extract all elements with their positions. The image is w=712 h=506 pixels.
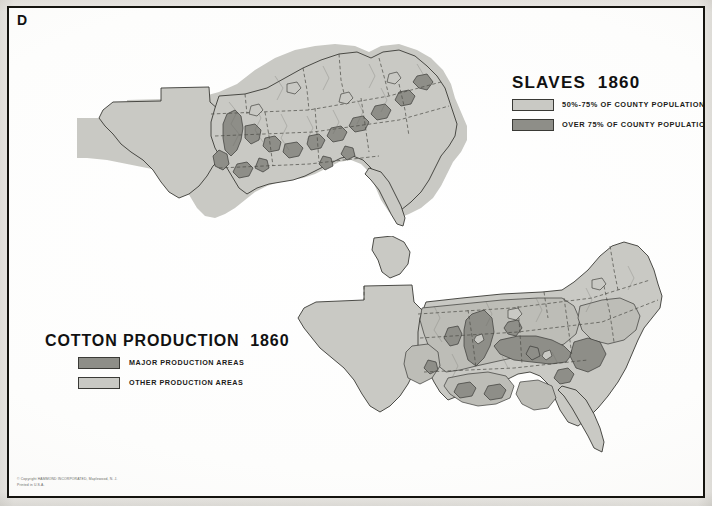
cotton-legend: COTTON PRODUCTION 1860 MAJOR PRODUCTION … — [45, 333, 289, 389]
slaves-map-graphic — [69, 40, 489, 240]
legend-swatch-major-production — [78, 357, 120, 369]
copyright-imprint: © Copyright HAMMOND INCORPORATED, Maplew… — [17, 477, 117, 488]
legend-label-major-production: MAJOR PRODUCTION AREAS — [129, 359, 244, 366]
legend-label-50-75: 50%-75% OF COUNTY POPULATION — [562, 101, 705, 108]
map-sheet: D — [7, 6, 705, 498]
slaves-1860-map — [69, 40, 489, 240]
legend-row: MAJOR PRODUCTION AREAS — [78, 357, 289, 369]
legend-label-other-production: OTHER PRODUCTION AREAS — [129, 379, 243, 386]
legend-swatch-other-production — [78, 377, 120, 389]
cotton-map-graphic — [262, 236, 702, 476]
slaves-legend: SLAVES 1860 50%-75% OF COUNTY POPULATION… — [512, 74, 705, 131]
cotton-legend-title: COTTON PRODUCTION 1860 — [45, 333, 289, 349]
legend-row: OTHER PRODUCTION AREAS — [78, 377, 289, 389]
legend-swatch-50-75 — [512, 99, 554, 111]
cotton-1860-map — [262, 236, 702, 476]
legend-row: OVER 75% OF COUNTY POPULATION — [512, 119, 705, 131]
legend-label-over-75: OVER 75% OF COUNTY POPULATION — [562, 121, 705, 128]
panel-letter: D — [17, 13, 28, 27]
legend-row: 50%-75% OF COUNTY POPULATION — [512, 99, 705, 111]
legend-swatch-over-75 — [512, 119, 554, 131]
northern-lobe — [372, 236, 410, 278]
slaves-legend-title: SLAVES 1860 — [512, 74, 705, 91]
atlas-page: D — [0, 0, 712, 506]
